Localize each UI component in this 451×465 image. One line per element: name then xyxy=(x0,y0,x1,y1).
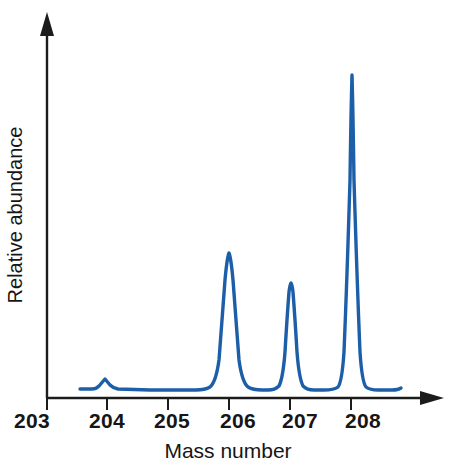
x-axis-title: Mass number xyxy=(164,439,291,462)
x-axis-arrow-icon xyxy=(420,391,444,405)
y-axis-title: Relative abundance xyxy=(4,127,26,304)
x-tick-label-203: 203 xyxy=(14,409,50,432)
x-tick-label-207: 207 xyxy=(282,409,318,432)
x-tick-label-206: 206 xyxy=(220,409,256,432)
chart-canvas: 203 204 205 206 207 208 Mass number Rela… xyxy=(0,0,451,465)
spectrum-trace xyxy=(80,75,401,390)
x-tick-label-204: 204 xyxy=(89,409,125,432)
mass-spectrum-chart: 203 204 205 206 207 208 Mass number Rela… xyxy=(0,0,451,465)
x-axis-tick-labels: 203 204 205 206 207 208 xyxy=(14,409,381,432)
y-axis xyxy=(40,12,54,398)
x-tick-label-208: 208 xyxy=(345,409,381,432)
x-tick-label-205: 205 xyxy=(154,409,190,432)
y-axis-arrow-icon xyxy=(40,12,54,36)
